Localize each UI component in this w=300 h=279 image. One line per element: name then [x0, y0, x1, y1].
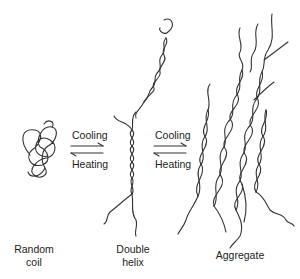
stage-label-aggregate: Aggregate	[210, 249, 270, 262]
random-coil-shape	[23, 121, 57, 177]
stage-label-line1: Aggregate	[210, 249, 270, 262]
stage-label-line1: Random	[13, 243, 55, 256]
stage-label-double-helix: Double helix	[113, 243, 153, 269]
stage-label-line1: Double	[113, 243, 153, 256]
transition-2-forward-label: Cooling	[155, 129, 191, 141]
transition-1-reverse-label: Heating	[72, 158, 108, 170]
diagram-canvas	[0, 0, 300, 279]
transition-1-forward-label: Cooling	[72, 129, 108, 141]
stage-label-line2: coil	[13, 256, 55, 269]
equilibrium-arrows-2	[154, 143, 186, 156]
aggregate-shape	[178, 14, 294, 248]
equilibrium-arrows-1	[71, 143, 103, 156]
stage-label-random-coil: Random coil	[13, 243, 55, 269]
double-helix-shape	[104, 19, 172, 236]
transition-2-reverse-label: Heating	[155, 158, 191, 170]
stage-label-line2: helix	[113, 256, 153, 269]
